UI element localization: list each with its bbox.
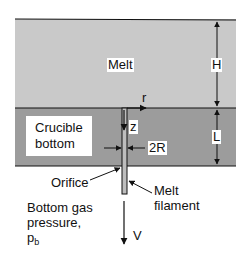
orifice-leader <box>90 168 120 180</box>
melt-label: Melt <box>107 58 134 72</box>
velocity-label: V <box>133 229 142 243</box>
crucible-label-line2: bottom <box>35 137 75 151</box>
gas-pressure-symbol: pb <box>27 231 39 249</box>
h-label: H <box>211 58 222 72</box>
crucible-label-line1: Crucible <box>35 121 83 135</box>
r-label: r <box>142 91 146 105</box>
filament-label-line2: filament <box>154 199 200 213</box>
gas-pressure-line1: Bottom gas <box>27 201 93 215</box>
z-label: z <box>129 120 138 134</box>
filament-label-line1: Melt <box>154 184 179 198</box>
l-label: L <box>212 130 221 144</box>
gas-pressure-subscript: b <box>34 237 39 247</box>
filament-leader <box>129 181 152 193</box>
two-r-label: 2R <box>148 141 167 155</box>
orifice-label: Orifice <box>51 176 89 190</box>
gas-pressure-line2: pressure, <box>27 216 81 230</box>
